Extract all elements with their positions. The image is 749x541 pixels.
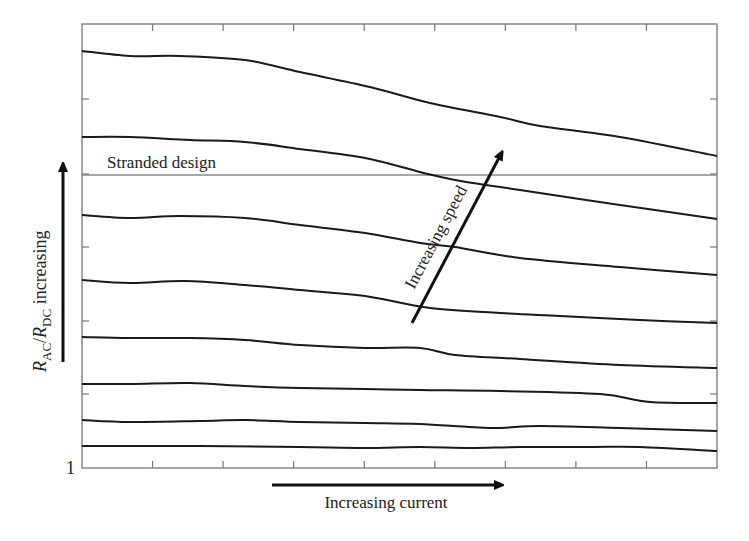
curve-line	[82, 280, 717, 323]
curve-line	[82, 420, 717, 431]
curve-line	[82, 137, 717, 219]
axis-ticks	[82, 24, 717, 468]
speed-curves	[82, 51, 717, 451]
curve-line	[82, 446, 717, 451]
y-axis-label: RAC/RDC increasing	[30, 230, 54, 373]
curve-line	[82, 215, 717, 275]
curve-line	[82, 337, 717, 368]
plot-frame	[82, 24, 717, 468]
curve-line	[82, 383, 717, 403]
x-axis-label: Increasing current	[324, 493, 447, 512]
chart: Stranded design Increasing speed RAC/RDC…	[0, 0, 749, 541]
stranded-design-label: Stranded design	[107, 153, 217, 172]
y-origin-tick-label: 1	[66, 458, 75, 478]
